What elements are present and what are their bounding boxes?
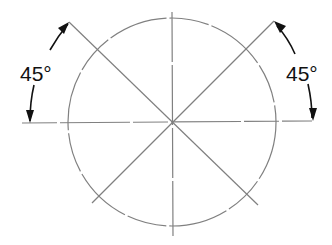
arrowhead-right-bottom	[309, 108, 317, 121]
construction-diagram	[0, 0, 332, 245]
diagonal-line-left-top	[69, 22, 258, 205]
arrowhead-right-top	[274, 21, 286, 33]
vertical-centerline	[172, 12, 173, 236]
horizontal-centerline	[22, 121, 312, 123]
right-angle-label: 45°	[286, 63, 318, 84]
arrowhead-left-bottom	[26, 110, 34, 123]
diagonal-line-right-top	[92, 21, 274, 203]
left-angle-label: 45°	[20, 63, 52, 84]
arrowhead-left-top	[58, 22, 69, 34]
